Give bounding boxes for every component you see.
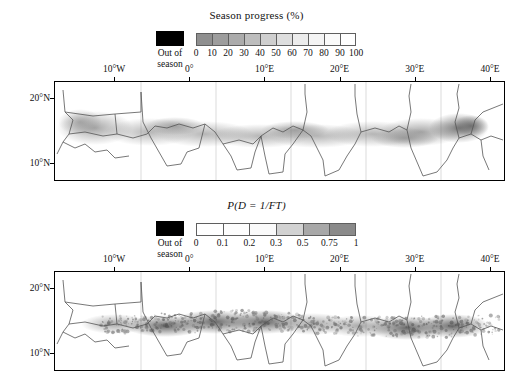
colorbar-tick-label: 60	[287, 48, 297, 58]
y-tick-10n-top: 10°N	[10, 158, 50, 168]
panel-probability: P(D = 1/FT) Out of season 00.10.20.30.50…	[0, 190, 513, 383]
map-graphic-probability	[55, 272, 505, 371]
x-tick-label: 20°E	[330, 254, 349, 264]
colorbar-cell	[249, 223, 276, 236]
colorbar-tick-label: 100	[349, 48, 363, 58]
colorbar-cell	[276, 33, 292, 46]
x-tick-label: 40°E	[480, 254, 499, 264]
colorbar-season-progress	[196, 33, 356, 46]
y-tick-mark-10n-top	[50, 163, 54, 164]
colorbar-probability	[196, 223, 356, 236]
map-probability	[54, 271, 505, 371]
x-tick-label: 0°	[185, 64, 194, 74]
colorbar-tick-label: 90	[335, 48, 345, 58]
map-graphic-season-progress	[55, 82, 505, 181]
colorbar-tick-label: 0	[194, 48, 199, 58]
x-tick-label: 40°E	[480, 64, 499, 74]
colorbar-cell	[340, 33, 356, 46]
colorbar-ticks-season-progress: 0102030405060708090100	[196, 48, 356, 60]
colorbar-cell	[196, 223, 223, 236]
out-of-season-swatch-icon	[156, 31, 184, 46]
x-axis-probability: 10°W0°10°E20°E30°E40°E	[0, 254, 513, 268]
panel-season-progress: Season progress (%) Out of season 010203…	[0, 0, 513, 190]
out-of-season-swatch-icon	[156, 221, 184, 236]
colorbar-tick-label: 80	[319, 48, 329, 58]
colorbar-cell	[212, 33, 228, 46]
colorbar-tick-label: 40	[255, 48, 265, 58]
colorbar-cell	[228, 33, 244, 46]
x-tick-label: 30°E	[405, 64, 424, 74]
x-tick-label: 30°E	[405, 254, 424, 264]
colorbar-tick-label: 1	[354, 238, 359, 248]
colorbar-cell	[324, 33, 340, 46]
colorbar-cell	[244, 33, 260, 46]
colorbar-cell	[303, 223, 330, 236]
colorbar-cell	[223, 223, 250, 236]
colorbar-tick-label: 0.5	[297, 238, 309, 248]
colorbar-title-season-progress: Season progress (%)	[0, 9, 513, 21]
colorbar-tick-label: 10	[207, 48, 217, 58]
x-tick-label: 0°	[185, 254, 194, 264]
colorbar-tick-label: 0.1	[217, 238, 229, 248]
colorbar-cell	[276, 223, 303, 236]
colorbar-cell	[292, 33, 308, 46]
colorbar-title-probability: P(D = 1/FT)	[0, 199, 513, 211]
colorbar-tick-label: 70	[303, 48, 313, 58]
map-season-progress	[54, 81, 505, 181]
y-tick-mark-20n-top	[50, 98, 54, 99]
y-tick-10n-bottom: 10°N	[10, 348, 50, 358]
y-tick-20n-top: 20°N	[10, 93, 50, 103]
colorbar-tick-label: 50	[271, 48, 281, 58]
x-tick-label: 10°W	[103, 254, 125, 264]
colorbar-tick-label: 0.75	[321, 238, 338, 248]
legend-probability: P(D = 1/FT) Out of season 00.10.20.30.50…	[0, 190, 513, 252]
y-tick-mark-20n-bottom	[50, 288, 54, 289]
colorbar-tick-label: 30	[239, 48, 249, 58]
colorbar-cell	[308, 33, 324, 46]
colorbar-cell	[329, 223, 356, 236]
x-tick-label: 10°E	[255, 64, 274, 74]
colorbar-tick-label: 0.2	[243, 238, 255, 248]
colorbar-ticks-probability: 00.10.20.30.50.751	[196, 238, 356, 250]
colorbar-cell	[196, 33, 212, 46]
y-tick-20n-bottom: 20°N	[10, 283, 50, 293]
colorbar-tick-label: 20	[223, 48, 233, 58]
x-tick-label: 20°E	[330, 64, 349, 74]
x-axis-season-progress: 10°W0°10°E20°E30°E40°E	[0, 64, 513, 78]
colorbar-tick-label: 0.3	[270, 238, 282, 248]
colorbar-tick-label: 0	[194, 238, 199, 248]
x-tick-label: 10°E	[255, 254, 274, 264]
y-tick-mark-10n-bottom	[50, 353, 54, 354]
x-tick-label: 10°W	[103, 64, 125, 74]
legend-season-progress: Season progress (%) Out of season 010203…	[0, 0, 513, 62]
colorbar-cell	[260, 33, 276, 46]
